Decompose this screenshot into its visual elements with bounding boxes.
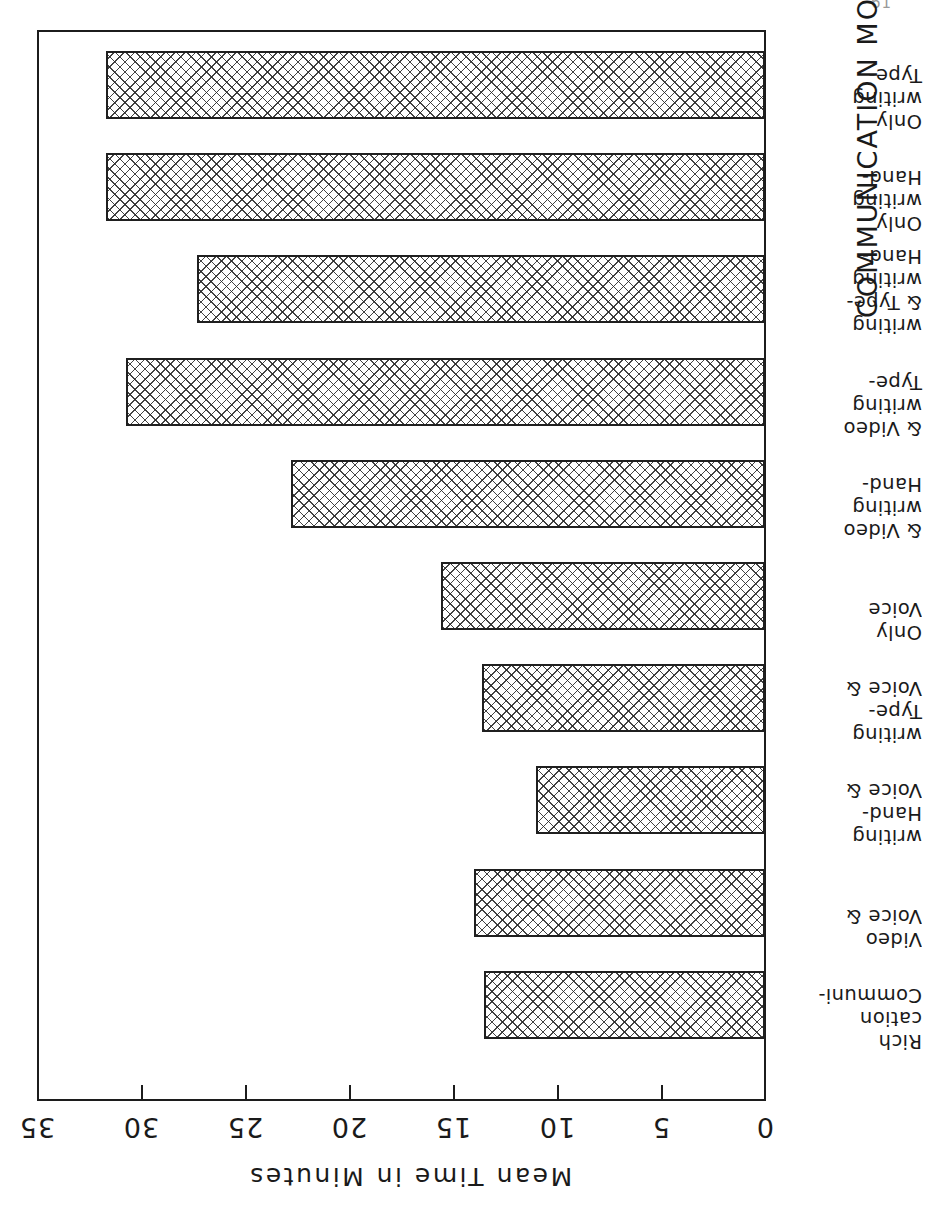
category-label-line: writing (772, 268, 922, 291)
category-label: & VideowritingType- (772, 344, 922, 440)
category-label-line: Type- (772, 64, 922, 87)
axis-tick-label: 35 (7, 1112, 67, 1143)
category-label: writing& Type-writingHand- (772, 241, 922, 337)
category-label-line: Type- (772, 371, 922, 394)
category-label-line: & Type- (772, 291, 922, 314)
category-label: & VideowritingHand- (772, 446, 922, 542)
category-label-line: & Video (772, 417, 922, 440)
category-label-line: writing (772, 496, 922, 519)
category-label-line: Only (772, 212, 922, 235)
category-label-line: Voice & (772, 677, 922, 700)
category-label-line: Hand- (772, 802, 922, 825)
axis-tick (453, 1085, 455, 1099)
category-label-line: Only (772, 110, 922, 133)
category-label-line: writing (772, 825, 922, 848)
category-label-line: writing (772, 723, 922, 746)
axis-tick (141, 1085, 143, 1099)
axis-tick (349, 1085, 351, 1099)
category-label: writingType-Voice & (772, 650, 922, 746)
category-label-line: writing (772, 314, 922, 337)
category-axis-title: COMMUNICATION MODES (852, 0, 883, 318)
category-label-line: Hand- (772, 245, 922, 268)
axis-tick-label: 25 (215, 1112, 275, 1143)
category-label-line: Type- (772, 700, 922, 723)
category-label-line: Communi- (772, 984, 922, 1007)
axis-tick-label: 10 (527, 1112, 587, 1143)
category-label-line: Only (772, 621, 922, 644)
category-label-line: & Video (772, 519, 922, 542)
category-label: OnlyVoice (772, 548, 922, 644)
category-label-line: Voice & (772, 905, 922, 928)
category-label-line: Voice (772, 598, 922, 621)
axis-tick-label: 0 (735, 1112, 795, 1143)
category-label-line: Hand- (772, 166, 922, 189)
category-label-line: Video (772, 928, 922, 951)
axis-tick-label: 30 (111, 1112, 171, 1143)
axis-tick (661, 1085, 663, 1099)
bar-chart-figure: 61 05101520253035 RichcationCommuni-Vide… (0, 0, 940, 1215)
category-label-line: Voice & (772, 779, 922, 802)
category-label: OnlywritingHand- (772, 139, 922, 235)
category-label-line: writing (772, 394, 922, 417)
axis-tick-label: 15 (423, 1112, 483, 1143)
axis-tick (245, 1085, 247, 1099)
axis-tick (557, 1085, 559, 1099)
category-label: writingHand-Voice & (772, 752, 922, 848)
category-label-line: Hand- (772, 473, 922, 496)
category-label-line: writing (772, 189, 922, 212)
category-label-line: cation (772, 1007, 922, 1030)
axis-tick-label: 5 (631, 1112, 691, 1143)
category-label: OnlywritingType- (772, 37, 922, 133)
category-label-line: Rich (772, 1030, 922, 1053)
category-label-line: writing (772, 87, 922, 110)
axis-tick-label: 20 (319, 1112, 379, 1143)
value-axis-title: Mean Time in Minutes (150, 1162, 670, 1191)
category-label: RichcationCommuni- (772, 957, 922, 1053)
category-label: VideoVoice & (772, 855, 922, 951)
